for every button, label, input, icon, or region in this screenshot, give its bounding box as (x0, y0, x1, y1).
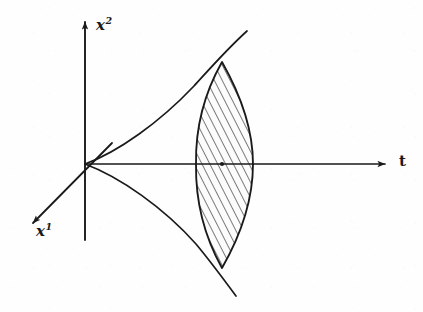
axis-label-t: t (399, 152, 406, 169)
axis-label-x2-superscript: 2 (105, 15, 112, 26)
axis-label-x1: x1 (36, 222, 52, 239)
point-marker (220, 162, 224, 166)
axis-label-t-base: t (399, 152, 406, 170)
axis-label-x1-superscript: 1 (45, 221, 52, 232)
diagram-canvas (0, 0, 423, 312)
spacetime-diagram-figure: x2 t x1 (0, 0, 423, 312)
axis-label-x1-base: x (36, 222, 45, 240)
axis-label-x2-base: x (96, 16, 105, 34)
depth-axis-line (33, 143, 112, 223)
axis-label-x2: x2 (96, 16, 112, 33)
